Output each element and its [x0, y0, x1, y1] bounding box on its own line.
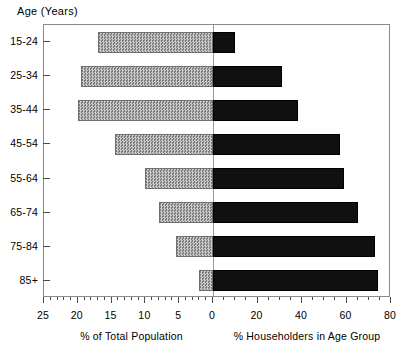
y-tick-label-85+: 85+: [20, 274, 38, 286]
y-tick-mark-35-44: [43, 109, 50, 110]
x-tick-minor: [90, 297, 91, 300]
bar-row: [44, 270, 389, 291]
x-tick-minor: [279, 297, 280, 300]
bar-left-55-64: [145, 168, 213, 189]
x-tick-major: [257, 297, 258, 303]
x-tick-minor: [234, 297, 235, 300]
x-tick-minor: [198, 297, 199, 300]
bar-row: [44, 202, 389, 223]
x-tick-minor: [151, 297, 152, 300]
x-tick-minor: [334, 297, 335, 300]
y-tick-label-75-84: 75-84: [10, 240, 38, 252]
y-axis-tick-labels: 15-2425-3435-4445-5455-6465-7475-8485+: [0, 0, 38, 353]
x-tick-label-20: 20: [250, 309, 262, 321]
x-tick-minor: [165, 297, 166, 300]
y-tick-label-35-44: 35-44: [10, 103, 38, 115]
x-tick-minor: [97, 297, 98, 300]
x-tick-minor: [192, 297, 193, 300]
bar-left-25-34: [81, 66, 213, 87]
x-tick-major: [346, 297, 347, 303]
bar-left-15-24: [98, 32, 213, 53]
x-tick-minor: [104, 297, 105, 300]
x-tick-major: [301, 297, 302, 303]
bar-row: [44, 32, 389, 53]
bar-row: [44, 66, 389, 87]
bar-left-85+: [199, 270, 213, 291]
bar-right-45-54: [213, 134, 340, 155]
x-tick-label-5: 5: [175, 309, 181, 321]
x-tick-label-10: 10: [138, 309, 150, 321]
x-tick-minor: [223, 297, 224, 300]
x-tick-major: [43, 297, 44, 303]
bar-row: [44, 236, 389, 257]
x-tick-minor: [312, 297, 313, 300]
bar-row: [44, 168, 389, 189]
y-tick-label-15-24: 15-24: [10, 35, 38, 47]
x-tick-major: [144, 297, 145, 303]
x-tick-minor: [70, 297, 71, 300]
y-tick-mark-25-34: [43, 75, 50, 76]
x-tick-major: [390, 297, 391, 303]
x-tick-minor: [117, 297, 118, 300]
x-axis-tick-labels: 252015105020406080: [0, 309, 413, 323]
x-tick-minor: [124, 297, 125, 300]
x-tick-label-80: 80: [384, 309, 396, 321]
bar-left-75-84: [176, 236, 213, 257]
population-pyramid-chart: Age (Years) 15-2425-3435-4445-5455-6465-…: [0, 0, 413, 353]
x-tick-minor: [379, 297, 380, 300]
x-tick-minor: [131, 297, 132, 300]
x-tick-minor: [323, 297, 324, 300]
bar-right-35-44: [213, 100, 298, 121]
bar-left-65-74: [159, 202, 213, 223]
x-tick-label-15: 15: [105, 309, 117, 321]
x-axis-tick-marks: [43, 297, 390, 306]
x-tick-minor: [268, 297, 269, 300]
x-tick-major: [111, 297, 112, 303]
bar-left-45-54: [115, 134, 213, 155]
x-tick-major: [212, 297, 213, 303]
x-tick-minor: [158, 297, 159, 300]
x-tick-minor: [245, 297, 246, 300]
y-tick-mark-65-74: [43, 212, 50, 213]
x-tick-label-25: 25: [37, 309, 49, 321]
x-tick-minor: [357, 297, 358, 300]
y-tick-label-55-64: 55-64: [10, 172, 38, 184]
x-tick-minor: [171, 297, 172, 300]
y-tick-mark-55-64: [43, 178, 50, 179]
right-axis-caption: % Householders in Age Group: [234, 330, 381, 342]
x-tick-minor: [290, 297, 291, 300]
bar-left-35-44: [78, 100, 213, 121]
x-tick-major: [178, 297, 179, 303]
y-tick-label-65-74: 65-74: [10, 206, 38, 218]
bar-right-15-24: [213, 32, 235, 53]
bar-right-85+: [213, 270, 378, 291]
y-tick-mark-75-84: [43, 246, 50, 247]
x-tick-minor: [57, 297, 58, 300]
bar-row: [44, 100, 389, 121]
left-axis-caption: % of Total Population: [80, 330, 183, 342]
x-tick-minor: [50, 297, 51, 300]
bar-right-25-34: [213, 66, 282, 87]
bar-row: [44, 134, 389, 155]
bar-right-55-64: [213, 168, 344, 189]
x-tick-minor: [84, 297, 85, 300]
x-tick-label-0: 0: [209, 309, 215, 321]
x-tick-minor: [138, 297, 139, 300]
x-tick-minor: [185, 297, 186, 300]
y-tick-mark-15-24: [43, 41, 50, 42]
x-tick-label-60: 60: [339, 309, 351, 321]
x-tick-major: [77, 297, 78, 303]
x-tick-label-20: 20: [71, 309, 83, 321]
y-tick-label-45-54: 45-54: [10, 137, 38, 149]
y-tick-mark-85+: [43, 280, 50, 281]
x-tick-minor: [63, 297, 64, 300]
x-tick-minor: [368, 297, 369, 300]
y-tick-label-25-34: 25-34: [10, 69, 38, 81]
plot-area: [43, 24, 390, 297]
y-tick-mark-45-54: [43, 143, 50, 144]
bar-right-75-84: [213, 236, 375, 257]
bar-right-65-74: [213, 202, 358, 223]
x-tick-minor: [205, 297, 206, 300]
x-tick-label-40: 40: [295, 309, 307, 321]
